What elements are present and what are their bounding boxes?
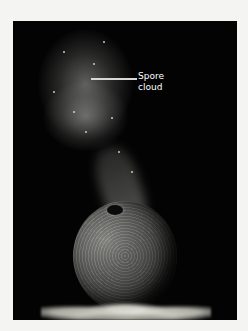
annotation-leader-line [91, 78, 137, 80]
spore-cloud-label: Spore cloud [138, 71, 164, 93]
spore-speck [93, 63, 95, 65]
puffball-pore [107, 205, 123, 215]
spore-speck [53, 91, 55, 93]
spore-speck [103, 41, 105, 43]
spore-cloud-lower [43, 81, 128, 151]
spore-speck [73, 111, 75, 113]
spore-speck [111, 117, 113, 119]
label-line-2: cloud [138, 82, 164, 93]
label-line-1: Spore [138, 71, 164, 82]
spore-speck [131, 171, 133, 173]
spore-speck [85, 131, 87, 133]
spore-speck [63, 51, 65, 53]
spore-speck [118, 151, 120, 153]
moss-ground [41, 294, 211, 320]
puffball-photograph: Spore cloud [13, 21, 237, 320]
